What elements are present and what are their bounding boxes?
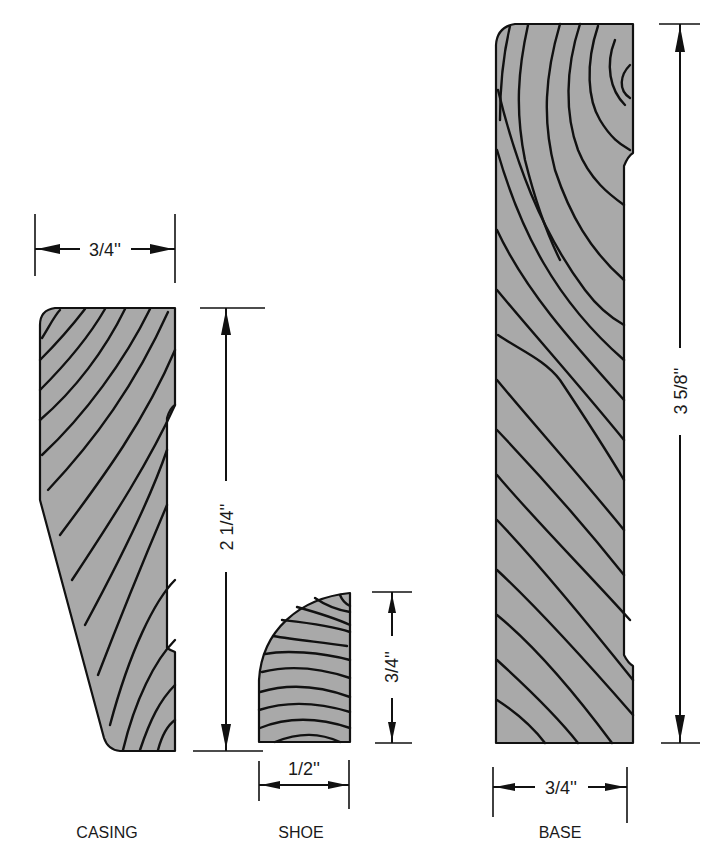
shoe-profile bbox=[259, 593, 350, 742]
shoe-group: 3/4'' 1/2'' SHOE bbox=[259, 592, 412, 841]
base-height-dimension: 3 5/8'' bbox=[659, 24, 700, 743]
base-height-label: 3 5/8'' bbox=[671, 368, 691, 415]
base-title: BASE bbox=[539, 824, 582, 841]
molding-diagram: 3/4'' bbox=[0, 0, 724, 855]
shoe-height-dimension: 3/4'' bbox=[372, 592, 412, 743]
casing-profile bbox=[40, 308, 175, 751]
casing-title: CASING bbox=[76, 824, 137, 841]
shoe-width-label: 1/2'' bbox=[288, 759, 320, 779]
base-width-dimension: 3/4'' bbox=[493, 767, 627, 823]
casing-group: 3/4'' bbox=[35, 214, 265, 841]
casing-height-dimension: 2 1/4'' bbox=[193, 308, 265, 751]
casing-width-label: 3/4'' bbox=[89, 240, 121, 260]
casing-height-label: 2 1/4'' bbox=[217, 504, 237, 551]
base-width-label: 3/4'' bbox=[545, 778, 577, 798]
base-profile bbox=[496, 24, 633, 743]
casing-width-dimension: 3/4'' bbox=[35, 214, 175, 283]
shoe-title: SHOE bbox=[278, 824, 323, 841]
base-group: 3 5/8'' 3/4'' BASE bbox=[493, 24, 700, 841]
shoe-width-dimension: 1/2'' bbox=[259, 759, 349, 809]
shoe-height-label: 3/4'' bbox=[382, 651, 402, 683]
